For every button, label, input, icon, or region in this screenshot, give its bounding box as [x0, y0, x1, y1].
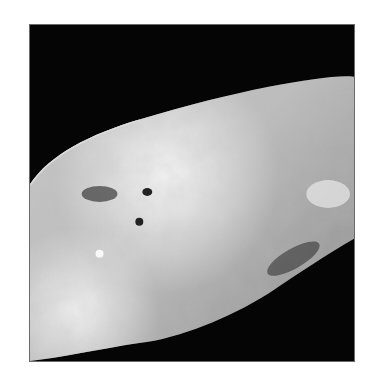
- photo-frame: [29, 24, 355, 362]
- rocky-body-image: [30, 25, 354, 361]
